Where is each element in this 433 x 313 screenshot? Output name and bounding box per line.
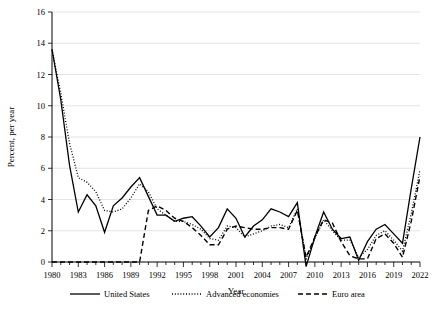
x-tick-label: 1995 [175, 270, 192, 280]
y-tick-label: 6 [41, 163, 45, 173]
legend-label-euro-area: Euro area [332, 289, 365, 299]
gridline-group [52, 12, 420, 231]
y-tick-label: 14 [37, 38, 46, 48]
x-tick-label: 2001 [228, 270, 245, 280]
x-tick-label: 1983 [70, 270, 87, 280]
x-tick-label: 2013 [333, 270, 350, 280]
inflation-line-chart: 0246810121416 19801983198619891992199519… [0, 0, 433, 313]
y-tick-label: 10 [37, 101, 46, 111]
series-line-united-states [52, 50, 420, 267]
x-tick-label: 1998 [201, 270, 218, 280]
y-tick-label: 16 [37, 7, 46, 17]
chart-legend: United StatesAdvanced economiesEuro area [70, 289, 365, 299]
legend-label-united-states: United States [104, 289, 150, 299]
y-tick-label: 2 [41, 226, 45, 236]
x-tick-label: 2016 [359, 270, 376, 280]
x-tick-label: 2022 [412, 270, 429, 280]
y-axis-tick-group: 0246810121416 [37, 7, 53, 267]
y-tick-label: 4 [41, 195, 46, 205]
y-tick-label: 8 [41, 132, 45, 142]
x-tick-label: 1986 [96, 270, 113, 280]
x-tick-label: 1989 [122, 270, 139, 280]
x-tick-label: 2019 [385, 270, 402, 280]
x-tick-label: 1980 [44, 270, 61, 280]
y-tick-label: 12 [37, 70, 46, 80]
data-series-group [52, 50, 420, 267]
legend-label-advanced-economies: Advanced economies [206, 289, 279, 299]
x-tick-label: 2010 [306, 270, 323, 280]
x-tick-label: 2007 [280, 270, 297, 280]
y-axis-title: Percent, per year [6, 107, 16, 168]
y-tick-label: 0 [41, 257, 45, 267]
chart-canvas: 0246810121416 19801983198619891992199519… [0, 0, 433, 313]
series-line-advanced-economies [52, 50, 420, 259]
x-axis-tick-group: 1980198319861989199219951998200120042007… [44, 262, 429, 280]
x-tick-label: 2004 [254, 270, 272, 280]
x-tick-label: 1992 [149, 270, 166, 280]
